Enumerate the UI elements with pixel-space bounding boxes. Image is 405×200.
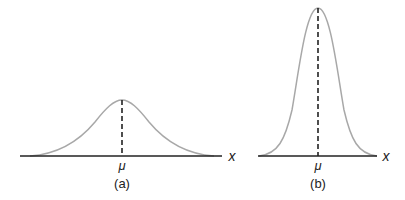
axis-label-a: x <box>228 148 237 164</box>
axis-label-b: x <box>382 148 391 164</box>
panel-b: μ x (b) <box>258 8 391 191</box>
caption-a: (a) <box>114 176 130 191</box>
panel-a: μ x (a) <box>20 100 237 191</box>
mean-label-a: μ <box>117 158 125 173</box>
mean-label-b: μ <box>313 158 321 173</box>
normal-curves-figure: μ x (a) μ x (b) <box>0 0 405 200</box>
caption-b: (b) <box>310 176 326 191</box>
